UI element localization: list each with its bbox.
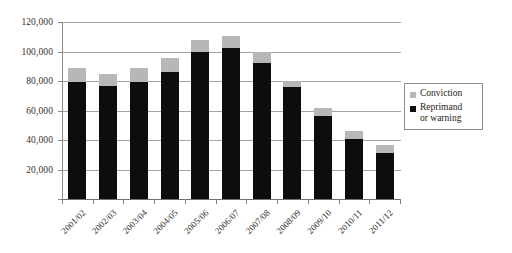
x-axis-tick (123, 199, 124, 204)
stacked-bar (161, 58, 179, 199)
x-axis-tick (369, 199, 370, 204)
x-axis-line (62, 199, 400, 200)
bar-column (216, 22, 247, 199)
bar-segment-reprimand (99, 86, 117, 199)
x-axis-tick (62, 199, 63, 204)
bar-column (185, 22, 216, 199)
bar-column (369, 22, 400, 199)
y-axis-label-100000: 100,000 (21, 47, 53, 57)
bar-column (339, 22, 370, 199)
stacked-bar (283, 81, 301, 199)
bar-segment-conviction (130, 68, 148, 82)
bar-segment-conviction (222, 36, 240, 48)
bar-series-group (62, 22, 400, 199)
bar-segment-reprimand (130, 82, 148, 199)
stacked-column-chart: 120,000 100,000 80,000 60,000 40,000 20,… (0, 0, 512, 253)
bar-column (62, 22, 93, 199)
y-axis-label-40000: 40,000 (26, 135, 53, 145)
bar-segment-conviction (345, 131, 363, 139)
legend-swatch-conviction-icon (410, 92, 416, 98)
y-axis-label-20000: 20,000 (26, 165, 53, 175)
stacked-bar (314, 108, 332, 199)
bar-segment-reprimand (68, 82, 86, 199)
bar-segment-reprimand (253, 63, 271, 199)
bar-segment-conviction (99, 74, 117, 86)
legend-label-reprimand-line2: or warning (420, 113, 461, 123)
stacked-bar (222, 36, 240, 199)
x-axis-tick (246, 199, 247, 204)
bar-segment-conviction (161, 58, 179, 72)
bar-segment-reprimand (376, 153, 394, 199)
y-axis-label-120000: 120,000 (21, 17, 53, 27)
bar-segment-reprimand (314, 116, 332, 199)
legend-item-reprimand: Reprimandor warning (410, 102, 477, 124)
y-axis: 120,000 100,000 80,000 60,000 40,000 20,… (0, 0, 62, 253)
stacked-bar (68, 68, 86, 199)
x-axis-tick (216, 199, 217, 204)
bar-column (246, 22, 277, 199)
x-axis-tick (339, 199, 340, 204)
legend-label-conviction: Conviction (420, 88, 462, 99)
legend-item-conviction: Conviction (410, 88, 477, 99)
bar-segment-reprimand (345, 139, 363, 199)
bar-segment-conviction (253, 52, 271, 63)
bar-segment-reprimand (161, 72, 179, 199)
x-axis-tick (277, 199, 278, 204)
stacked-bar (130, 68, 148, 199)
x-axis-tick (308, 199, 309, 204)
bar-segment-conviction (68, 68, 86, 82)
y-axis-label-60000: 60,000 (26, 106, 53, 116)
x-axis-tick (93, 199, 94, 204)
bar-column (154, 22, 185, 199)
legend-swatch-reprimand-icon (410, 106, 416, 112)
bar-segment-reprimand (222, 48, 240, 199)
x-axis-tick (185, 199, 186, 204)
bar-column (93, 22, 124, 199)
bar-segment-reprimand (283, 87, 301, 199)
bar-column (308, 22, 339, 199)
y-axis-label-80000: 80,000 (26, 76, 53, 86)
x-axis-tick (400, 199, 401, 204)
bar-segment-conviction (314, 108, 332, 116)
x-axis-tick (154, 199, 155, 204)
bar-segment-conviction (283, 81, 301, 87)
stacked-bar (99, 74, 117, 199)
bar-segment-reprimand (191, 52, 209, 199)
stacked-bar (253, 52, 271, 199)
chart-legend: Conviction Reprimandor warning (404, 83, 483, 130)
legend-label-reprimand-line1: Reprimand (420, 102, 462, 112)
stacked-bar (191, 40, 209, 199)
stacked-bar (376, 145, 394, 199)
legend-label-reprimand: Reprimandor warning (420, 102, 462, 124)
stacked-bar (345, 131, 363, 199)
bar-column (123, 22, 154, 199)
bar-column (277, 22, 308, 199)
bar-segment-conviction (376, 145, 394, 153)
bar-segment-conviction (191, 40, 209, 52)
